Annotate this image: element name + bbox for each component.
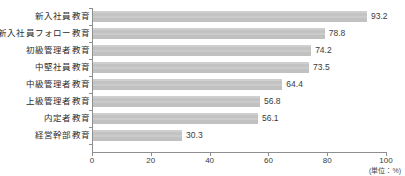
bar-row: 内定者教育56.1 <box>0 110 405 127</box>
bar-chart: 新入社員教育93.2新入社員フォロー教育78.8初級管理者教育74.2中堅社員教… <box>0 0 405 176</box>
x-axis-tick-label: 60 <box>264 156 273 165</box>
bar-row: 初級管理者教育74.2 <box>0 42 405 59</box>
plot-area: 新入社員教育93.2新入社員フォロー教育78.8初級管理者教育74.2中堅社員教… <box>0 0 405 176</box>
bar-row: 新入社員教育93.2 <box>0 8 405 25</box>
x-axis-line <box>92 152 386 153</box>
bar-row: 上級管理者教育56.8 <box>0 93 405 110</box>
y-axis-tick <box>89 42 92 43</box>
category-label: 新入社員教育 <box>35 8 90 25</box>
bar <box>93 96 260 107</box>
value-label: 56.8 <box>264 93 281 110</box>
y-axis-tick <box>89 144 92 145</box>
y-axis-tick <box>89 127 92 128</box>
bar <box>93 45 311 56</box>
x-axis-tick-label: 0 <box>90 156 94 165</box>
value-label: 64.4 <box>286 76 303 93</box>
category-label: 上級管理者教育 <box>26 93 90 110</box>
y-axis-tick <box>89 93 92 94</box>
value-label: 30.3 <box>186 127 203 144</box>
y-axis-tick <box>89 25 92 26</box>
y-axis-tick <box>89 110 92 111</box>
bar-row: 新入社員フォロー教育78.8 <box>0 25 405 42</box>
y-axis-tick <box>89 8 92 9</box>
x-axis-tick-label: 80 <box>323 156 332 165</box>
bar-row: 中級管理者教育64.4 <box>0 76 405 93</box>
y-axis-tick <box>89 76 92 77</box>
value-label: 74.2 <box>315 42 332 59</box>
bar <box>93 79 282 90</box>
category-label: 新入社員フォロー教育 <box>0 25 90 42</box>
category-label: 中級管理者教育 <box>26 76 90 93</box>
bar-row: 中堅社員教育73.5 <box>0 59 405 76</box>
x-axis-tick-label: 40 <box>205 156 214 165</box>
category-label: 中堅社員教育 <box>35 59 90 76</box>
value-label: 78.8 <box>329 25 346 42</box>
value-label: 56.1 <box>262 110 279 127</box>
bar <box>93 28 325 39</box>
bar <box>93 130 182 141</box>
category-label: 経営幹部教育 <box>35 127 90 144</box>
x-axis-tick-label: 100 <box>379 156 392 165</box>
category-label: 内定者教育 <box>44 110 90 127</box>
bar <box>93 62 309 73</box>
unit-note: (単位：%) <box>369 165 401 175</box>
bar <box>93 11 367 22</box>
x-axis-tick-label: 20 <box>146 156 155 165</box>
bar-row: 経営幹部教育30.3 <box>0 127 405 144</box>
bar <box>93 113 258 124</box>
value-label: 73.5 <box>313 59 330 76</box>
category-label: 初級管理者教育 <box>26 42 90 59</box>
y-axis-tick <box>89 59 92 60</box>
value-label: 93.2 <box>371 8 388 25</box>
